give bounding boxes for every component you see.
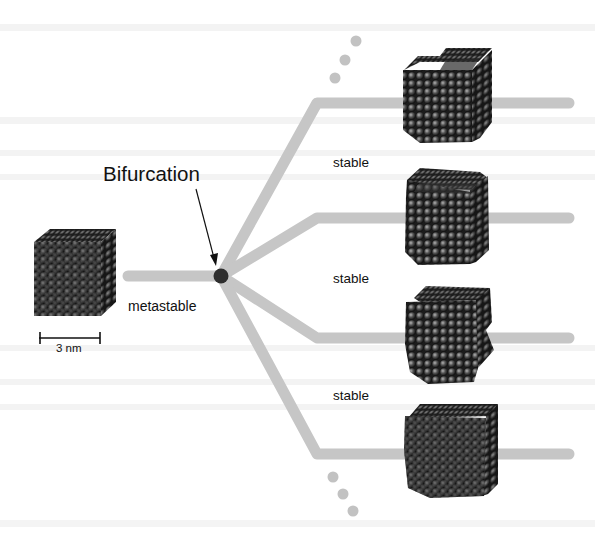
bifurcation-arrow-icon	[196, 189, 218, 266]
metastable-label: metastable	[128, 298, 197, 314]
nanocube-branch-3	[405, 286, 494, 384]
branch-path-2	[221, 218, 569, 276]
ellipsis-dots-bottom	[328, 472, 359, 517]
bifurcation-node	[214, 269, 229, 284]
stable-label-3: stable	[333, 388, 369, 403]
bifurcation-diagram: Bifurcation metastable stable stable sta…	[0, 0, 595, 540]
stable-label-2: stable	[333, 271, 369, 286]
branch-path-4	[221, 276, 569, 454]
nanocube-branch-4	[404, 404, 498, 498]
nanocube-branch-1	[403, 48, 492, 143]
nanocube-initial	[34, 229, 116, 316]
scale-bar-label: 3 nm	[56, 342, 82, 354]
bifurcation-label: Bifurcation	[103, 162, 200, 185]
branch-path-3	[221, 276, 569, 338]
diagram-canvas: Bifurcation metastable stable stable sta…	[0, 0, 595, 540]
nanocube-branch-2	[405, 168, 489, 265]
ellipsis-dots-top	[330, 36, 362, 84]
stable-label-1: stable	[333, 155, 369, 170]
